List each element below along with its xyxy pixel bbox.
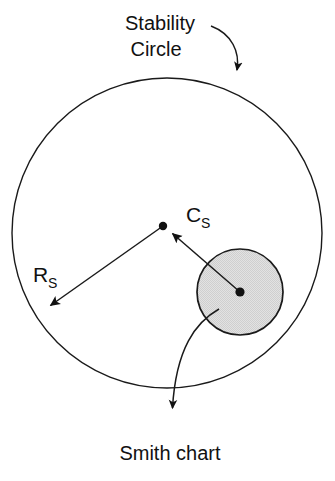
smith-center-dot [235, 287, 244, 296]
radius-vector-line [51, 226, 164, 306]
stability-center-dot [159, 222, 167, 230]
radius-symbol-label: R [33, 263, 48, 286]
radius-symbol-subscript: S [48, 275, 57, 291]
center-symbol-subscript: S [201, 215, 210, 231]
stability-circle [12, 78, 322, 388]
stability-circle-callout-arrow [211, 26, 238, 70]
stability-circle-title-line1: Stability [125, 12, 195, 34]
stability-circle-diagram: Stability Circle C S R S Smith chart [0, 0, 335, 481]
smith-chart-caption: Smith chart [119, 442, 221, 464]
center-symbol-label: C [186, 203, 201, 226]
diagram-canvas: Stability Circle C S R S Smith chart [0, 0, 335, 481]
stability-circle-title-line2: Circle [130, 38, 181, 60]
